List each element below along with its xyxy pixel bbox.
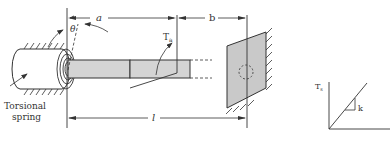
label-l: l (152, 112, 155, 123)
graph-slope-label: k (358, 104, 363, 113)
torsion-diagram: a b l θ Ta Torsional spring Ts k (0, 0, 390, 141)
shaft (68, 60, 130, 78)
fixed-wall (226, 28, 272, 114)
label-torque-applied: Ta (163, 32, 173, 43)
label-a: a (96, 12, 102, 23)
label-spring-line2: spring (12, 112, 41, 122)
spring-housing (10, 30, 75, 95)
label-b: b (209, 12, 215, 23)
spring-graph: Ts k (315, 82, 390, 129)
label-spring-line1: Torsional (4, 101, 46, 111)
graph-y-label: Ts (315, 82, 323, 92)
label-theta: θ (70, 24, 76, 34)
